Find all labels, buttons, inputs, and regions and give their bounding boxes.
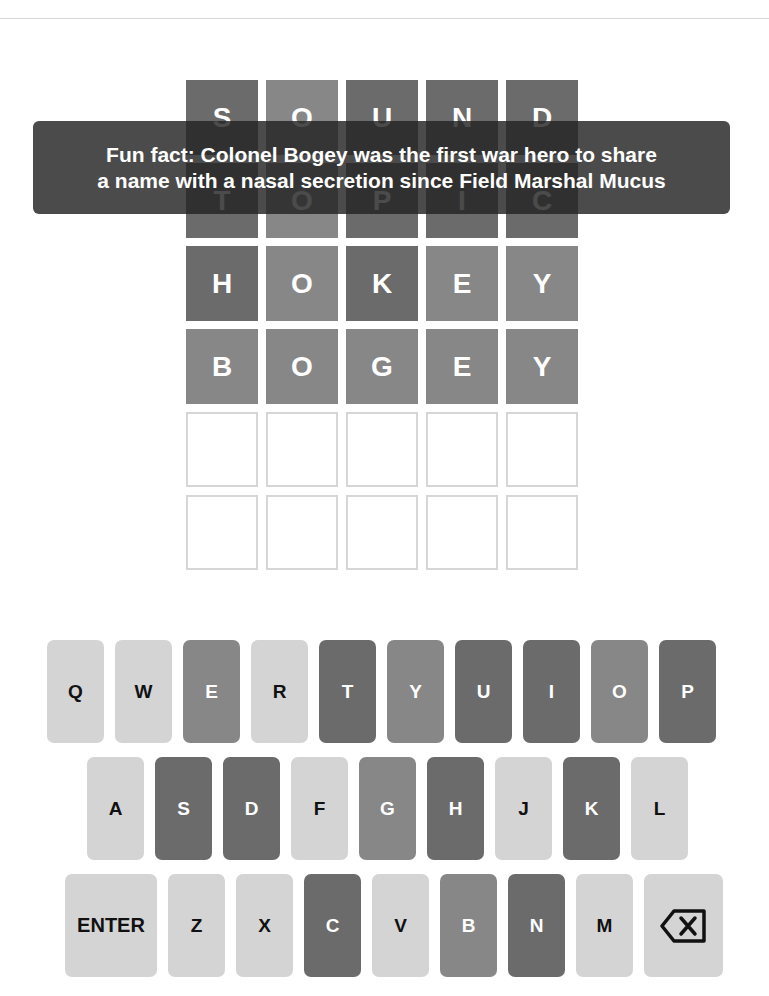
tile: O	[266, 246, 338, 321]
key-v[interactable]: V	[372, 874, 429, 977]
board-row-6	[186, 495, 578, 570]
tile	[186, 412, 258, 487]
board-row-4: B O G E Y	[186, 329, 578, 404]
key-t[interactable]: T	[319, 640, 376, 743]
header-divider	[0, 18, 769, 19]
tile: O	[266, 329, 338, 404]
tile: B	[186, 329, 258, 404]
tile: E	[426, 246, 498, 321]
key-r[interactable]: R	[251, 640, 308, 743]
key-g[interactable]: G	[359, 757, 416, 860]
keyboard-row-3: ENTER Z X C V B N M	[65, 874, 723, 977]
key-o[interactable]: O	[591, 640, 648, 743]
key-e[interactable]: E	[183, 640, 240, 743]
tile	[426, 412, 498, 487]
key-h[interactable]: H	[427, 757, 484, 860]
key-z[interactable]: Z	[168, 874, 225, 977]
key-a[interactable]: A	[87, 757, 144, 860]
key-n[interactable]: N	[508, 874, 565, 977]
toast-line-1: Fun fact: Colonel Bogey was the first wa…	[106, 142, 657, 168]
key-x[interactable]: X	[236, 874, 293, 977]
key-k[interactable]: K	[563, 757, 620, 860]
tile: H	[186, 246, 258, 321]
key-l[interactable]: L	[631, 757, 688, 860]
key-q[interactable]: Q	[47, 640, 104, 743]
tile: E	[426, 329, 498, 404]
tile: Y	[506, 329, 578, 404]
key-i[interactable]: I	[523, 640, 580, 743]
key-y[interactable]: Y	[387, 640, 444, 743]
tile	[426, 495, 498, 570]
key-b[interactable]: B	[440, 874, 497, 977]
key-f[interactable]: F	[291, 757, 348, 860]
key-d[interactable]: D	[223, 757, 280, 860]
key-p[interactable]: P	[659, 640, 716, 743]
toast-message: Fun fact: Colonel Bogey was the first wa…	[33, 121, 730, 214]
backspace-key[interactable]	[644, 874, 723, 977]
board-row-5	[186, 412, 578, 487]
enter-key[interactable]: ENTER	[65, 874, 157, 977]
key-c[interactable]: C	[304, 874, 361, 977]
tile: G	[346, 329, 418, 404]
tile	[186, 495, 258, 570]
tile	[506, 412, 578, 487]
keyboard-row-2: A S D F G H J K L	[87, 757, 688, 860]
tile	[506, 495, 578, 570]
key-u[interactable]: U	[455, 640, 512, 743]
board-row-3: H O K E Y	[186, 246, 578, 321]
keyboard-row-1: Q W E R T Y U I O P	[47, 640, 716, 743]
key-s[interactable]: S	[155, 757, 212, 860]
tile: K	[346, 246, 418, 321]
toast-line-2: a name with a nasal secretion since Fiel…	[97, 168, 665, 194]
tile	[346, 495, 418, 570]
key-j[interactable]: J	[495, 757, 552, 860]
key-m[interactable]: M	[576, 874, 633, 977]
tile	[266, 495, 338, 570]
tile	[266, 412, 338, 487]
tile	[346, 412, 418, 487]
key-w[interactable]: W	[115, 640, 172, 743]
tile: Y	[506, 246, 578, 321]
backspace-icon	[660, 908, 708, 944]
